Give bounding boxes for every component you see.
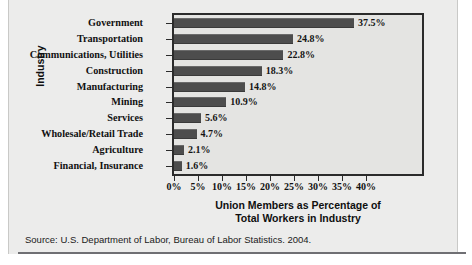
bar (174, 18, 354, 28)
source-divider (18, 252, 466, 254)
bar-value-label: 10.9% (230, 94, 258, 110)
x-axis-tick-label: 20% (260, 181, 280, 192)
bar-value-label: 4.7% (201, 126, 224, 142)
figure-container: Industry GovernmentTransportationCommuni… (0, 0, 472, 265)
bar-value-label: 22.8% (287, 47, 315, 63)
figure-panel: Industry GovernmentTransportationCommuni… (8, 0, 458, 254)
bar (174, 113, 201, 123)
bar-row (174, 95, 422, 111)
bar-value-label: 24.8% (297, 31, 325, 47)
y-axis-label: Agriculture (92, 142, 143, 158)
bar (174, 97, 226, 107)
bar (174, 82, 245, 92)
y-axis-title: Industry (34, 31, 46, 101)
bar-row (174, 63, 422, 79)
y-axis-label: Communications, Utilities (30, 47, 143, 63)
x-axis-tick-label: 40% (356, 181, 376, 192)
bar-value-label: 14.8% (249, 79, 277, 95)
x-axis-title-line2: Total Workers in Industry (172, 212, 424, 225)
bar (174, 129, 197, 139)
x-axis-title-line1: Union Members as Percentage of (172, 199, 424, 212)
bar-row (174, 79, 422, 95)
x-axis-tick-label: 35% (332, 181, 352, 192)
bar-row (174, 142, 422, 158)
x-axis-tick-label: 25% (284, 181, 304, 192)
y-axis-label: Manufacturing (77, 79, 143, 95)
x-axis-tick-label: 5% (191, 181, 206, 192)
bar-value-label: 1.6% (186, 158, 209, 174)
source-note: Source: U.S. Department of Labor, Bureau… (25, 234, 311, 245)
y-axis-label: Financial, Insurance (54, 158, 143, 174)
x-axis-title: Union Members as Percentage of Total Wor… (172, 199, 424, 225)
x-axis-tick-label: 30% (308, 181, 328, 192)
y-axis-label: Construction (86, 63, 143, 79)
bar (174, 50, 283, 60)
bar (174, 34, 293, 44)
bar-value-label: 37.5% (358, 15, 386, 31)
y-axis-label: Mining (111, 94, 143, 110)
bar (174, 145, 184, 155)
y-axis-label: Transportation (77, 31, 143, 47)
bar-value-label: 5.6% (205, 110, 228, 126)
bar-row (174, 158, 422, 174)
x-axis-tick-label: 0% (167, 181, 182, 192)
x-axis-tick-label: 10% (212, 181, 232, 192)
x-axis-tick-label: 15% (236, 181, 256, 192)
bar-value-label: 18.3% (266, 63, 294, 79)
bar-value-label: 2.1% (188, 142, 211, 158)
bar (174, 161, 182, 171)
y-axis-label: Services (107, 110, 143, 126)
y-axis-label: Government (88, 15, 143, 31)
y-axis-label: Wholesale/Retail Trade (41, 126, 143, 142)
bar (174, 66, 262, 76)
